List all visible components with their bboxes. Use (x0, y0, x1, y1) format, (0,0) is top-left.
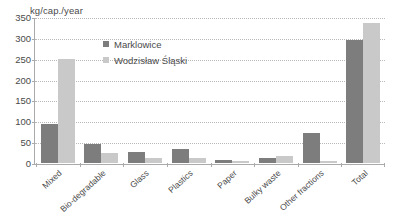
y-axis-tick-label: 100 (0, 117, 31, 127)
y-axis-tick-label: 300 (0, 34, 31, 44)
bars-layer (36, 18, 385, 163)
y-axis-tick-label: 350 (0, 13, 31, 23)
bar-series-b (363, 23, 380, 163)
bar-series-b (101, 153, 118, 163)
x-axis-label-slot: Glass (123, 166, 167, 216)
bar-series-b (58, 59, 75, 163)
x-axis-label-slot: Mixed (35, 166, 79, 216)
x-axis-label-slot: Paper (210, 166, 254, 216)
x-axis-category-label: Glass (128, 168, 151, 190)
bar-series-a (303, 133, 320, 163)
y-axis-tick-label: 250 (0, 55, 31, 65)
bar-series-a (41, 124, 58, 163)
y-axis-title: kg/cap./year (30, 5, 83, 16)
bar-group (36, 18, 80, 163)
y-axis-tick-mark (32, 60, 35, 61)
x-axis-label-slot: Bio-degradable (79, 166, 123, 216)
legend: MarklowiceWodzisław Śląski (103, 36, 187, 68)
bar-series-b (276, 156, 293, 163)
y-axis-tick-label: 50 (0, 138, 31, 148)
legend-label: Wodzisław Śląski (114, 55, 187, 66)
y-axis-tick-mark (32, 143, 35, 144)
x-axis-category-label: Total (350, 168, 370, 187)
bar-series-a (215, 160, 232, 163)
y-axis-tick-mark (32, 81, 35, 82)
x-axis-label-slot: Plastics (166, 166, 210, 216)
y-axis-tick-label: 0 (0, 159, 31, 169)
bar-series-a (128, 152, 145, 163)
y-axis-tick-mark (32, 18, 35, 19)
x-axis-category-label: Mixed (40, 168, 64, 191)
y-axis-tick-label: 200 (0, 76, 31, 86)
y-axis-tick-mark (32, 164, 35, 165)
bar-series-b (189, 158, 206, 163)
y-axis-tick-mark (32, 122, 35, 123)
x-axis-label-slot: Bulky waste (254, 166, 298, 216)
x-axis-label-slot: Other fractions (298, 166, 342, 216)
bar-group (298, 18, 342, 163)
plot-area: 350300250200150100500 (34, 18, 385, 165)
y-axis-tick-mark (32, 39, 35, 40)
bar-group (254, 18, 298, 163)
bar-group (341, 18, 385, 163)
x-axis-category-label: Plastics (166, 168, 194, 195)
bar-series-a (259, 158, 276, 163)
legend-swatch-icon (103, 41, 109, 47)
bar-series-b (232, 161, 249, 163)
legend-label: Marklowice (114, 39, 162, 50)
bar-group (211, 18, 255, 163)
bar-series-b (145, 158, 162, 163)
y-axis-tick-label: 150 (0, 96, 31, 106)
legend-swatch-icon (103, 57, 109, 63)
x-axis-category-labels: MixedBio-degradableGlassPlasticsPaperBul… (35, 166, 385, 216)
bar-chart: kg/cap./year 350300250200150100500 Mixed… (0, 0, 394, 217)
legend-item: Wodzisław Śląski (103, 52, 187, 68)
bar-series-a (172, 149, 189, 163)
x-axis-label-slot: Total (341, 166, 385, 216)
bar-series-a (84, 144, 101, 163)
bar-series-a (346, 40, 363, 163)
x-axis-category-label: Paper (215, 168, 239, 191)
y-axis-tick-mark (32, 101, 35, 102)
bar-series-b (320, 161, 337, 163)
legend-item: Marklowice (103, 36, 187, 52)
